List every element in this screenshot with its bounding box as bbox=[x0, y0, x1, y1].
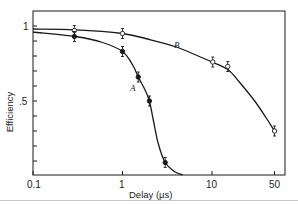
data-point-b bbox=[120, 29, 124, 39]
data-point-a bbox=[120, 47, 124, 57]
y-tick-label-0.5: .5 bbox=[19, 96, 28, 107]
y-tick-label-1: 1 bbox=[23, 21, 29, 32]
curve-a bbox=[33, 32, 183, 175]
x-axis-ticks bbox=[33, 171, 275, 175]
x-tick-label-10: 10 bbox=[206, 179, 218, 190]
filled-circle-marker bbox=[136, 75, 140, 79]
y-axis-ticks bbox=[33, 26, 37, 161]
efficiency-vs-delay-chart: 1 .5 0.1 1 10 50 Delay (μs) Efficiency B… bbox=[0, 0, 298, 205]
data-point-a bbox=[72, 32, 76, 42]
bottom-divider bbox=[0, 200, 298, 201]
open-circle-marker bbox=[211, 60, 215, 64]
x-tick-label-50: 50 bbox=[269, 179, 281, 190]
x-tick-label-0.1: 0.1 bbox=[27, 179, 41, 190]
filled-circle-marker bbox=[163, 160, 167, 164]
x-tick-label-1: 1 bbox=[119, 179, 125, 190]
x-axis-title: Delay (μs) bbox=[129, 189, 172, 200]
open-circle-marker bbox=[272, 129, 276, 133]
curves bbox=[33, 29, 275, 175]
filled-circle-marker bbox=[120, 49, 124, 53]
filled-circle-marker bbox=[147, 99, 151, 103]
curve-b bbox=[33, 29, 275, 131]
data-point-b bbox=[211, 57, 215, 67]
filled-circle-marker bbox=[72, 34, 76, 38]
open-circle-marker bbox=[120, 31, 124, 35]
curve-label-b: B bbox=[174, 40, 180, 50]
y-axis-title: Efficiency bbox=[4, 92, 15, 133]
curve-label-a: A bbox=[129, 83, 136, 93]
open-circle-marker bbox=[226, 64, 230, 68]
